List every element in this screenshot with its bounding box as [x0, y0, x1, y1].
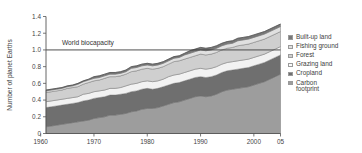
y-tick-label: 0.4 [32, 96, 41, 103]
legend-item[interactable]: Forest [288, 52, 362, 59]
legend-item-label: Carbon footprint [296, 80, 319, 93]
chart-container: World biocapacity 00.20.40.60.81.01.21.4… [0, 0, 362, 153]
legend-swatch-icon [288, 63, 293, 68]
x-tick-label: 1960 [34, 138, 49, 145]
y-tick-label: 0.2 [32, 113, 41, 120]
y-tick-label: 1.2 [32, 30, 41, 37]
x-axis-ticks: 1960197019801990200005 [34, 134, 285, 146]
chart-legend: Built-up landFishing groundForestGrazing… [288, 34, 362, 95]
legend-item-label: Grazing land [296, 61, 332, 68]
x-tick-label: 2000 [247, 138, 262, 145]
legend-item[interactable]: Fishing ground [288, 43, 362, 50]
legend-item[interactable]: Cropland [288, 70, 362, 77]
legend-item-label: Fishing ground [296, 43, 338, 50]
legend-swatch-icon [288, 35, 293, 40]
y-tick-label: 0.8 [32, 63, 41, 70]
legend-item[interactable]: Grazing land [288, 61, 362, 68]
y-tick-label: 1.4 [32, 13, 41, 20]
legend-swatch-icon [288, 54, 293, 59]
legend-item-label: Built-up land [296, 34, 332, 41]
x-tick-label: 1970 [87, 138, 102, 145]
x-tick-label: 1980 [140, 138, 155, 145]
x-tick-label: 05 [277, 138, 285, 145]
world-biocapacity-label: World biocapacity [62, 39, 115, 47]
legend-swatch-icon [288, 72, 293, 77]
y-tick-label: 1.0 [32, 46, 41, 53]
legend-item[interactable]: Built-up land [288, 34, 362, 41]
legend-swatch-icon [288, 45, 293, 50]
legend-swatch-icon [288, 81, 293, 86]
legend-item[interactable]: Carbon footprint [288, 80, 362, 93]
y-axis-ticks: 00.20.40.60.81.01.21.4 [32, 13, 46, 137]
y-tick-label: 0.6 [32, 80, 41, 87]
legend-item-label: Forest [296, 52, 314, 59]
x-tick-label: 1990 [193, 138, 208, 145]
y-axis-title: Number of planet Earths [6, 39, 14, 111]
legend-item-label: Cropland [296, 70, 322, 77]
